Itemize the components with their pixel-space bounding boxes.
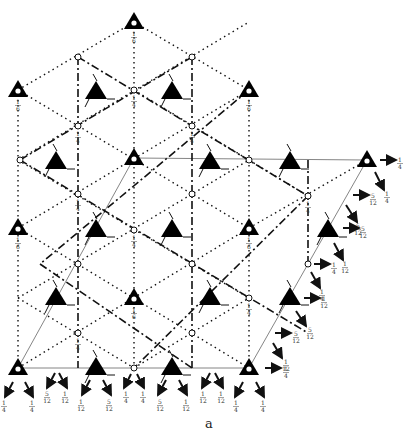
fraction-label: 14 [75,337,81,351]
fraction-label: 14 [131,94,137,108]
fraction-label: 112 [77,398,85,412]
fraction-label: 512 [43,390,51,404]
fraction-label: 512 [156,398,164,412]
svg-text:12: 12 [359,232,367,239]
svg-text:1: 1 [141,390,145,397]
fraction-label: 512 [292,330,300,344]
svg-text:1: 1 [76,337,80,344]
twofold-axis-arrow-icon [82,380,90,395]
svg-text:4: 4 [385,197,389,204]
threefold-axis-icon [124,148,144,165]
svg-text:6: 6 [247,105,251,112]
svg-text:4: 4 [306,207,310,214]
fraction-label: 16 [131,30,137,44]
inversion-center-icon [131,365,137,371]
twofold-axis-arrow-icon [334,243,343,260]
fraction-label: 14 [140,390,146,404]
fraction-label: 16 [15,98,21,112]
fraction-label: 14 [305,200,311,214]
svg-text:1: 1 [2,399,6,406]
inversion-center-icon [75,191,81,197]
fraction-label: 14 [131,234,137,248]
screw-axis-icon [279,144,309,177]
twofold-axis-arrow-icon [103,380,111,395]
screw-axis-icon [85,350,115,383]
svg-text:4: 4 [141,397,145,404]
screw-axis-icon [161,74,191,107]
svg-text:12: 12 [292,337,300,344]
svg-text:1: 1 [201,390,205,397]
svg-text:4: 4 [30,406,34,413]
svg-text:1: 1 [398,156,402,163]
twofold-axis-arrow-icon [235,382,243,397]
inversion-center-icon [305,193,311,199]
svg-text:1: 1 [30,399,34,406]
twofold-axis-arrow-icon [375,172,384,190]
symmetry-diagram: 161616161616 1414141414141414 1414512512… [0,0,407,430]
threefold-axis-icon [8,358,28,375]
threefold-axis-icon [124,288,144,305]
twofold-axis-arrow-icon [47,373,55,388]
fraction-label: 112 [217,390,225,404]
svg-text:12: 12 [61,397,69,404]
svg-text:12: 12 [156,405,164,412]
fraction-label: 112 [341,260,349,274]
svg-text:1: 1 [16,236,20,243]
svg-text:4: 4 [247,309,251,316]
inversion-center-icon [189,123,195,129]
inversion-center-icon [131,87,137,93]
svg-text:1: 1 [385,190,389,197]
svg-text:1: 1 [306,200,310,207]
inversion-center-icon [189,261,195,267]
svg-text:12: 12 [369,199,377,206]
svg-text:12: 12 [182,405,190,412]
inversion-center-icon [131,227,137,233]
svg-text:1: 1 [322,295,326,302]
inversion-center-icon [246,157,252,163]
svg-text:5: 5 [107,398,111,405]
svg-text:1: 1 [190,130,194,137]
svg-text:6: 6 [132,37,136,44]
inversion-center-icon [17,157,23,163]
fraction-label: 14 [397,156,403,170]
inversion-center-icon [189,191,195,197]
svg-text:4: 4 [132,101,136,108]
svg-text:4: 4 [132,241,136,248]
svg-text:12: 12 [341,267,349,274]
svg-text:12: 12 [105,405,113,412]
twofold-axis-arrow-icon [346,205,357,222]
twofold-axis-arrow-icon [215,373,223,388]
svg-text:1: 1 [284,365,288,372]
screw-axes [45,74,347,383]
svg-text:4: 4 [124,397,128,404]
inversion-center-icon [75,123,81,129]
fraction-label: 14 [384,190,390,204]
svg-text:1: 1 [76,198,80,205]
screw-axis-icon [161,350,191,383]
twofold-axis-arrow-icon [158,380,166,395]
twofold-axis-arrow-icon [256,382,264,397]
svg-text:5: 5 [371,192,375,199]
svg-text:1: 1 [184,398,188,405]
svg-text:1: 1 [132,30,136,37]
screw-axis-icon [85,74,115,107]
svg-text:12: 12 [77,405,85,412]
fraction-label: 512 [105,398,113,412]
svg-text:4: 4 [332,268,336,275]
threefold-axis-icon [239,358,259,375]
threefold-axis-icon [239,218,259,235]
fraction-label: 14 [189,130,195,144]
edge-arrows: 1414512512512112141411251251211214 [265,156,403,379]
fraction-label: 16 [246,98,252,112]
svg-text:1: 1 [261,399,265,406]
fraction-label: 112 [61,390,69,404]
fraction-label: 14 [29,399,35,413]
fraction-label: 112 [199,390,207,404]
svg-text:5: 5 [361,225,365,232]
fraction-label: 14 [331,261,337,275]
inversion-center-icon [75,330,81,336]
svg-text:1: 1 [79,398,83,405]
svg-text:1: 1 [234,399,238,406]
svg-text:6: 6 [16,243,20,250]
svg-text:4: 4 [190,137,194,144]
